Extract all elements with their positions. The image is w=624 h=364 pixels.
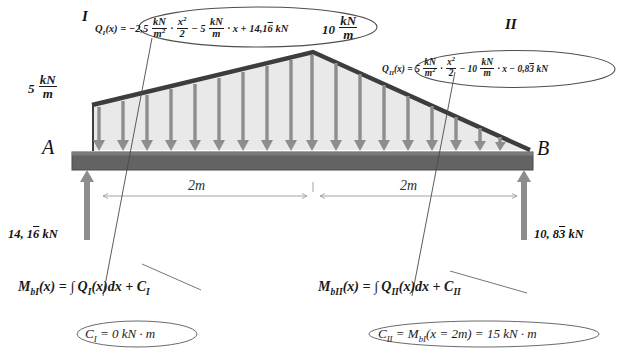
reaction-A-unit: kN bbox=[39, 227, 57, 241]
dimension-lines bbox=[103, 182, 517, 196]
equation-q2: QII(x) = 5 kN m2 · x2 2 − 10 kN m · x − … bbox=[382, 58, 548, 78]
q1-f1-den: m2 bbox=[152, 29, 167, 40]
load-left-unit-den: m bbox=[39, 87, 57, 100]
q1-lhs: Q bbox=[95, 23, 103, 34]
c2-lhs: C bbox=[378, 326, 387, 341]
load-peak-unit-den: m bbox=[339, 28, 357, 41]
mb1-lhs: M bbox=[18, 279, 30, 294]
equation-mb2: MbII(x) = ∫ QII(x)dx + CII bbox=[318, 280, 461, 294]
q2-f2-num-sup: 2 bbox=[452, 55, 455, 62]
reaction-value-A: 14, 16 kN bbox=[8, 227, 58, 242]
dimension-label-right: 2m bbox=[400, 178, 417, 194]
c1-rhs: = 0 kN · m bbox=[97, 326, 156, 341]
region-label-I: I bbox=[82, 8, 88, 25]
q2-repeating-digit: 3 bbox=[529, 64, 534, 74]
q1-coef1: −2,5 bbox=[129, 23, 149, 34]
q2-f1-den-sup: 2 bbox=[432, 66, 435, 73]
mb1-lhs-sub: bI bbox=[30, 287, 38, 297]
beam-load-diagram: I II QI(x) = −2,5 kN m2 · x2 2 − 5 kN m … bbox=[0, 0, 624, 364]
q1-f2-den: 2 bbox=[177, 29, 188, 40]
q2-f3-den: m bbox=[480, 69, 494, 79]
q2-frac-kn-m: kN m bbox=[480, 58, 494, 78]
q1-frac-kn-m2: kN m2 bbox=[152, 17, 167, 39]
q1-f2-num: x2 bbox=[177, 17, 188, 29]
dimension-label-left: 2m bbox=[188, 178, 205, 194]
q1-lhs-arg: (x) = bbox=[105, 23, 126, 34]
load-peak-label: 10 kN m bbox=[322, 14, 358, 42]
load-left-value: 5 bbox=[28, 81, 35, 96]
q1-coef2: − 5 bbox=[191, 23, 205, 34]
q1-frac-x2-2: x2 2 bbox=[177, 17, 188, 39]
q1-coef3: + 14,1 bbox=[241, 23, 268, 34]
load-left-unit: kN m bbox=[39, 73, 57, 101]
support-label-A: A bbox=[42, 136, 54, 159]
q1-frac-kn-m: kN m bbox=[209, 17, 224, 39]
q2-frac-kn-m2: kN m2 bbox=[423, 58, 437, 78]
q1-f1-den-sup: 2 bbox=[162, 26, 166, 34]
q1-f3-den: m bbox=[209, 29, 224, 40]
q2-unit: kN bbox=[536, 64, 548, 74]
q1-f2-num-sup: 2 bbox=[183, 15, 187, 23]
equation-q1: QI(x) = −2,5 kN m2 · x2 2 − 5 kN m · x +… bbox=[95, 17, 288, 39]
q2-lhs: Q bbox=[382, 64, 389, 74]
reaction-arrow-A bbox=[80, 170, 94, 240]
q1-repeating-digit: 6 bbox=[268, 23, 273, 34]
q2-lhs-arg: (x) = bbox=[394, 64, 413, 74]
q1-unit: kN bbox=[275, 23, 288, 34]
q2-var: x bbox=[502, 64, 507, 74]
q1-var: x bbox=[233, 23, 238, 34]
q1-dot2: · bbox=[227, 23, 230, 34]
q2-f2-den: 2 bbox=[446, 69, 456, 79]
leader-c2 bbox=[450, 271, 527, 293]
q1-f1-den-txt: m bbox=[154, 28, 162, 39]
q2-frac-x2-2: x2 2 bbox=[446, 58, 456, 78]
q2-dot2: · bbox=[497, 64, 499, 74]
q1-f3-num: kN bbox=[209, 17, 224, 29]
support-label-B: B bbox=[537, 137, 549, 160]
mb1-tail-sub: I bbox=[146, 287, 150, 297]
q2-dot1: · bbox=[440, 64, 442, 74]
c2-mid-sub: bI bbox=[419, 334, 426, 344]
q2-coef3: − 0,8 bbox=[509, 64, 529, 74]
mb2-q-sub: II bbox=[391, 287, 398, 297]
load-left-label: 5 kN m bbox=[28, 73, 58, 101]
mb2-tail-sub: II bbox=[453, 287, 460, 297]
beam-member bbox=[72, 152, 533, 170]
reaction-value-B: 10, 83 kN bbox=[534, 227, 584, 242]
load-peak-value: 10 bbox=[322, 22, 335, 37]
q2-coef2: − 10 bbox=[459, 64, 477, 74]
c1-lhs: C bbox=[85, 326, 94, 341]
load-peak-unit: kN m bbox=[339, 14, 357, 42]
c2-rhs: (x = 2m) = 15 kN · m bbox=[426, 326, 537, 341]
mb2-lhs-sub: bII bbox=[330, 287, 342, 297]
q2-coef1: 5 bbox=[415, 64, 420, 74]
equation-c2: CII = MbI(x = 2m) = 15 kN · m bbox=[378, 327, 537, 340]
reaction-B-unit: kN bbox=[565, 227, 583, 241]
reaction-arrow-B bbox=[517, 170, 531, 240]
reaction-A-whole: 14, 1 bbox=[8, 227, 33, 241]
mb1-text: (x) = ∫ Q bbox=[39, 279, 88, 294]
mb2-tail: (x)dx + C bbox=[399, 279, 454, 294]
load-left-unit-num: kN bbox=[39, 73, 57, 87]
leader-c1 bbox=[142, 264, 201, 290]
q1-dot1: · bbox=[170, 23, 173, 34]
mb1-tail: (x)dx + C bbox=[91, 279, 146, 294]
mb2-lhs: M bbox=[318, 279, 330, 294]
equation-mb1: MbI(x) = ∫ QI(x)dx + CI bbox=[18, 280, 150, 294]
equation-c1: CI = 0 kN · m bbox=[85, 327, 155, 340]
load-peak-unit-num: kN bbox=[339, 14, 357, 28]
c2-mid: = M bbox=[393, 326, 419, 341]
q2-f1-den: m2 bbox=[423, 69, 437, 79]
mb2-text: (x) = ∫ Q bbox=[343, 279, 392, 294]
region-label-II: II bbox=[505, 16, 517, 33]
reaction-B-whole: 10, 8 bbox=[534, 227, 559, 241]
